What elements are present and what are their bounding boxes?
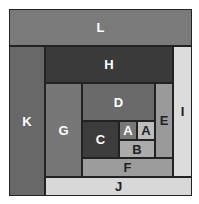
cell-l: L — [9, 9, 192, 46]
cell-j: J — [45, 177, 192, 196]
cell-d: D — [82, 83, 155, 121]
cell-a: A — [119, 121, 137, 140]
cell-g: G — [45, 83, 82, 177]
cell-h: H — [45, 46, 173, 83]
cell-b: B — [119, 140, 155, 158]
cell-k: K — [9, 46, 45, 196]
cell-f: F — [82, 158, 173, 177]
cell-i: I — [173, 46, 192, 177]
cell-a: A — [137, 121, 155, 140]
cell-e: E — [155, 83, 173, 158]
cell-c: C — [82, 121, 119, 158]
